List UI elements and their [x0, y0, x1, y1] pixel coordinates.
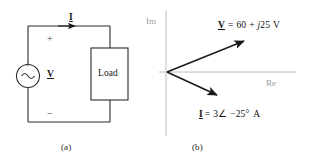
- voltage-eq-unit: V: [273, 20, 280, 30]
- current-phasor-arrow: [167, 72, 217, 95]
- real-axis-label: Re: [266, 79, 276, 88]
- figure-container: I + V − + − Load Im Re V=60+j25V I=3∠−25…: [0, 0, 314, 165]
- voltage-eq-sign: +: [249, 20, 254, 30]
- terminal-minus-sign: −: [47, 109, 53, 119]
- source-plus-sign: +: [25, 60, 30, 69]
- voltage-eq-prefix: =: [228, 20, 233, 30]
- terminal-plus-sign: +: [47, 34, 53, 44]
- voltage-eq-imag: 25: [260, 20, 270, 30]
- current-eq-prefix: =: [205, 109, 210, 119]
- current-label: I: [69, 13, 73, 23]
- load-label: Load: [98, 69, 118, 79]
- voltage-phasor-symbol: V: [218, 20, 225, 30]
- voltage-label: V: [47, 70, 54, 80]
- caption-panel-a: (a): [61, 143, 71, 152]
- caption-panel-b: (b): [192, 143, 203, 152]
- current-eq-angle: −25°: [230, 109, 249, 119]
- source-minus-sign: −: [25, 83, 30, 92]
- current-eq-angle-glyph: ∠: [218, 109, 227, 119]
- imaginary-axis-label: Im: [146, 17, 156, 26]
- current-eq-unit: A: [253, 109, 260, 119]
- current-phasor-symbol: I: [199, 109, 203, 119]
- voltage-eq-real: 60: [236, 20, 246, 30]
- voltage-phasor-equation: V=60+j25V: [218, 21, 280, 31]
- voltage-phasor-arrow: [167, 41, 244, 72]
- phasor-vectors: [167, 41, 244, 95]
- current-phasor-equation: I=3∠−25°A: [199, 110, 260, 120]
